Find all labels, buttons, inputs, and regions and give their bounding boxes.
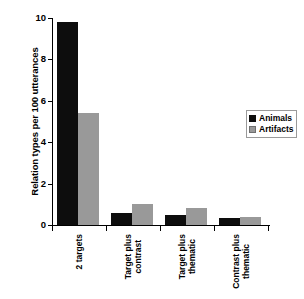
- x-axis-label-text: Target plusthematic: [177, 234, 197, 279]
- y-tick-mark: [48, 184, 53, 185]
- y-tick-mark: [48, 59, 53, 60]
- y-axis-line: [52, 18, 53, 226]
- bar-chart: Relation types per 100 utterances 024681…: [0, 0, 304, 299]
- y-tick-mark: [48, 18, 53, 19]
- legend-item-artifacts: Artifacts: [249, 124, 293, 135]
- y-tick-label: 4: [12, 137, 46, 147]
- y-tick-label: 10: [12, 13, 46, 23]
- y-tick-label-text: 6: [16, 96, 46, 106]
- legend: Animals Artifacts: [246, 110, 297, 138]
- bar-animals: [219, 218, 240, 225]
- y-tick-label-text: 0: [16, 220, 46, 230]
- x-axis-label: Contrast plusthematic: [214, 234, 268, 298]
- x-tick-mark: [106, 226, 107, 231]
- x-axis-line: [52, 225, 270, 226]
- legend-item-animals: Animals: [249, 113, 293, 124]
- bar-artifacts: [132, 204, 153, 225]
- legend-label-artifacts: Artifacts: [259, 125, 293, 134]
- bar-artifacts: [240, 217, 261, 225]
- y-tick-label: 8: [12, 54, 46, 64]
- y-tick-label-text: 4: [16, 137, 46, 147]
- x-tick-mark: [160, 226, 161, 231]
- x-tick-mark: [214, 226, 215, 231]
- x-tick-mark: [268, 226, 269, 231]
- y-tick-label-text: 10: [16, 13, 46, 23]
- legend-label-animals: Animals: [259, 114, 292, 123]
- y-tick-mark: [48, 142, 53, 143]
- bar-animals: [165, 215, 186, 225]
- bar-artifacts: [186, 208, 207, 225]
- x-axis-label-text: Contrast plusthematic: [231, 234, 251, 289]
- y-tick-label: 6: [12, 96, 46, 106]
- y-tick-mark: [48, 101, 53, 102]
- animals-swatch-icon: [249, 115, 256, 122]
- x-axis-label-text: 2 targets: [74, 234, 84, 269]
- y-tick-label: 0: [12, 220, 46, 230]
- y-tick-label: 2: [12, 179, 46, 189]
- x-axis-label-text: Target pluscontrast: [123, 234, 143, 279]
- x-axis-label: 2 targets: [52, 234, 106, 298]
- y-axis-title: Relation types per 100 utterances: [29, 17, 40, 227]
- x-axis-label: Target pluscontrast: [106, 234, 160, 298]
- artifacts-swatch-icon: [249, 126, 256, 133]
- y-tick-label-text: 8: [16, 54, 46, 64]
- bar-artifacts: [78, 113, 99, 225]
- bar-animals: [111, 213, 132, 225]
- x-tick-mark: [52, 226, 53, 231]
- x-axis-label: Target plusthematic: [160, 234, 214, 298]
- y-tick-label-text: 2: [16, 179, 46, 189]
- bar-animals: [57, 22, 78, 225]
